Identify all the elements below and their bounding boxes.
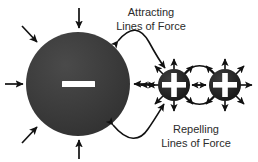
field-arrow-neg-upper-left (22, 26, 37, 42)
field-arrow-posleft-downleft (155, 96, 163, 104)
field-arrow-posright-upright (236, 66, 244, 74)
positive-charge-right (209, 69, 241, 101)
repelling-label-line1: Repelling (173, 123, 219, 135)
attracting-label-line2: Lines of Force (116, 20, 186, 32)
attracting-label: Attracting Lines of Force (116, 6, 186, 32)
repelling-label: Repelling Lines of Force (161, 123, 231, 149)
field-arrow-posright-upleft (206, 66, 214, 74)
repelling-label-line2: Lines of Force (161, 137, 231, 149)
plus-symbol-right-vertical (222, 73, 228, 97)
field-arrow-neg-lower-left (22, 127, 37, 143)
electrostatic-diagram: Attracting Lines of Force Repelling Line… (0, 0, 258, 162)
field-arrow-posright-downleft (206, 96, 214, 104)
field-arrow-posleft-upright (185, 66, 193, 74)
diagram-canvas: Attracting Lines of Force Repelling Line… (0, 0, 258, 162)
attracting-label-line1: Attracting (128, 6, 174, 18)
positive-charge-left (158, 69, 190, 101)
plus-symbol-left-vertical (171, 73, 177, 97)
field-arrow-posleft-upleft (155, 66, 163, 74)
field-arrow-posright-downright (236, 96, 244, 104)
field-arrow-posleft-downright (185, 96, 193, 104)
minus-symbol (62, 81, 95, 87)
negative-charge (26, 32, 130, 136)
